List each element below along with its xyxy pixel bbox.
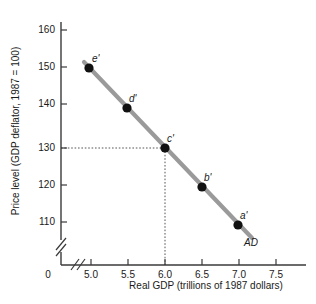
y-tick-label-140: 140 (26, 99, 55, 109)
x-tick-label-7-0: 7.0 (224, 270, 254, 280)
data-point-e[interactable] (84, 63, 93, 72)
data-point-a[interactable] (233, 220, 242, 229)
y-tick-label-130: 130 (26, 143, 55, 153)
y-axis-ticks (61, 30, 67, 222)
x-tick-label-6-5: 6.5 (187, 270, 217, 280)
origin-label: 0 (42, 270, 54, 280)
x-tick-label-6-0: 6.0 (150, 270, 180, 280)
y-tick-label-120: 120 (26, 180, 55, 190)
y-tick-label-150: 150 (26, 62, 55, 72)
data-point-label-a: a' (240, 211, 247, 221)
y-tick-label-160: 160 (26, 25, 55, 35)
data-point-label-b: b' (204, 173, 211, 183)
x-axis-title: Real GDP (trillions of 1987 dollars) (96, 281, 316, 291)
data-point-label-c: c' (167, 134, 174, 144)
ad-curve-label: AD (244, 238, 258, 248)
x-axis-ticks (91, 259, 276, 265)
y-tick-label-110: 110 (26, 217, 55, 227)
ad-curve-chart: Price level (GDP deflator, 1987 = 100) R… (0, 0, 316, 304)
x-tick-label-7-5: 7.5 (261, 270, 291, 280)
guide-lines (61, 148, 165, 265)
x-tick-label-5-0: 5.0 (76, 270, 106, 280)
y-axis-title: Price level (GDP deflator, 1987 = 100) (11, 31, 21, 231)
data-point-b[interactable] (197, 182, 206, 191)
data-point-label-d: d' (129, 94, 136, 104)
data-point-d[interactable] (122, 103, 131, 112)
data-point-label-e: e' (92, 54, 99, 64)
x-tick-label-5-5: 5.5 (113, 270, 143, 280)
data-point-c[interactable] (160, 143, 169, 152)
